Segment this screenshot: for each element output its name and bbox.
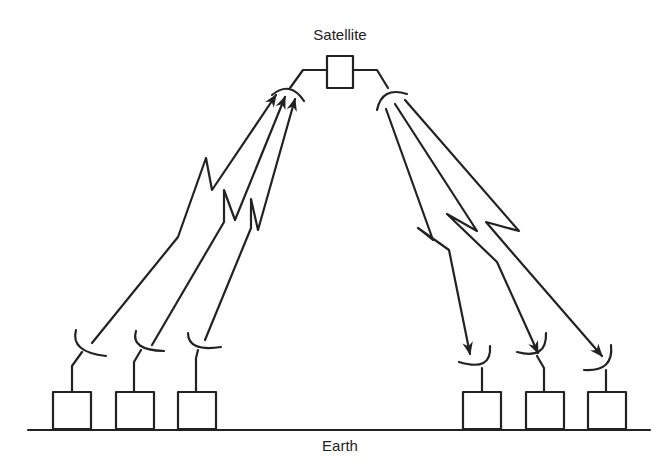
uplink-station-3 [178, 392, 216, 429]
downlink-dish-1 [459, 346, 490, 365]
uplink-stalk-1 [72, 352, 82, 392]
uplink-stalk-2 [134, 350, 141, 392]
downlink-station-3 [588, 392, 626, 429]
uplink-dish-1 [75, 330, 106, 356]
uplink-station-2 [116, 392, 154, 429]
satellite-body [327, 56, 353, 88]
uplink-station-1 [53, 392, 91, 429]
uplink-beam-1 [92, 95, 276, 343]
satellite-label: Satellite [313, 26, 366, 43]
downlink-station-2 [526, 392, 564, 429]
satellite-left-arm [290, 70, 327, 88]
downlink-dish-3 [584, 345, 611, 370]
satellite-right-arm [353, 70, 388, 88]
satellite-transmit-dish [377, 92, 407, 110]
downlink-beam-3 [405, 100, 602, 356]
downlink-station-1 [463, 392, 501, 429]
downlink-stalk-2 [537, 356, 544, 392]
earth-label: Earth [322, 437, 358, 454]
uplink-stalk-3 [196, 350, 198, 392]
downlink-beam-1 [386, 109, 470, 354]
satellite-communication-diagram [0, 0, 671, 475]
